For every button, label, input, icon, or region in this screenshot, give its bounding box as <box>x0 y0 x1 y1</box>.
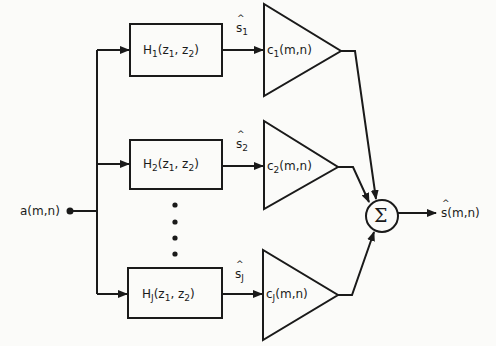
filter-label-2: H2(z1, z2) <box>143 158 199 173</box>
filter-bank-diagram: a(m,n) H1(z1, z2) H2(z1, z2) HJ(z1, z2) … <box>0 0 496 346</box>
ellipsis-dots <box>172 202 177 256</box>
diagram-lines <box>0 0 496 346</box>
filter-label-1: H1(z1, z2) <box>143 44 199 59</box>
input-label: a(m,n) <box>20 205 60 217</box>
signal-label-2: s2 <box>236 138 248 153</box>
signal-label-1: s1 <box>236 22 248 37</box>
output-label: s(m,n) <box>441 207 480 219</box>
summation-symbol: Σ <box>374 206 387 225</box>
signal-label-J: sJ <box>235 268 244 283</box>
gain-label-1: c1(m,n) <box>267 44 312 59</box>
gain-label-2: c2(m,n) <box>267 160 312 175</box>
gain-label-J: cJ(m,n) <box>266 288 308 303</box>
filter-label-J: HJ(z1, z2) <box>142 288 195 303</box>
